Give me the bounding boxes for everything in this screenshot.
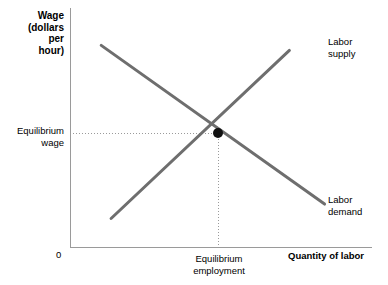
equilibrium-wage-guide-line — [70, 133, 218, 134]
equilibrium-employment-label: Equilibrium employment — [160, 253, 278, 276]
equilibrium-wage-label: Equilibrium wage — [0, 125, 64, 148]
equilibrium-employment-guide-line — [218, 133, 219, 247]
y-axis-line — [70, 8, 71, 248]
x-axis-title: Quantity of labor — [288, 250, 364, 261]
origin-tick-label: 0 — [56, 249, 61, 260]
labor-supply-curve — [109, 48, 292, 220]
supply-demand-chart: Wage (dollars per hour) Quantity of labo… — [0, 0, 388, 285]
labor-supply-label: Labor supply — [328, 36, 355, 59]
labor-demand-label: Labor demand — [328, 194, 362, 217]
labor-demand-curve — [99, 43, 327, 206]
x-axis-line — [70, 247, 372, 248]
y-axis-title: Wage (dollars per hour) — [0, 10, 64, 56]
equilibrium-point-marker — [213, 128, 223, 138]
